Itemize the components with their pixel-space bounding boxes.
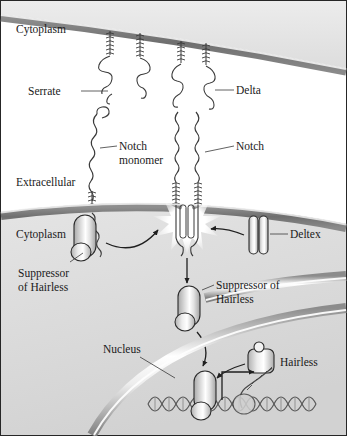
label-suppressor-mid-line2: Hairless — [216, 293, 254, 305]
suppressor-left-lobe — [71, 243, 91, 261]
label-cytoplasm-bottom: Cytoplasm — [16, 228, 66, 241]
deltex-subunit-right — [259, 216, 268, 254]
label-deltex: Deltex — [290, 228, 321, 240]
suppressor-dna-lobe — [191, 402, 211, 420]
label-nucleus: Nucleus — [103, 343, 141, 355]
suppressor-of-hairless-left — [71, 215, 96, 261]
label-notch-monomer-line2: monomer — [119, 154, 163, 166]
suppressor-released-lobe — [175, 313, 195, 331]
deltex-protein — [249, 216, 268, 254]
label-serrate: Serrate — [28, 85, 61, 97]
label-delta: Delta — [236, 84, 261, 96]
label-suppressor-mid-line1: Suppressor of — [216, 279, 280, 292]
label-suppressor-left-line2: of Hairless — [18, 281, 69, 293]
transcript-bubble — [233, 394, 255, 414]
hairless-knob — [254, 342, 264, 352]
label-cytoplasm-top: Cytoplasm — [16, 23, 66, 36]
label-hairless: Hairless — [280, 356, 318, 368]
label-extracellular: Extracellular — [16, 176, 76, 188]
label-suppressor-left-line1: Suppressor — [18, 267, 69, 280]
notch-signaling-figure: Cytoplasm Serrate Delta Notch monomer No… — [0, 0, 347, 436]
label-notch-monomer-line1: Notch — [119, 140, 147, 152]
deltex-subunit-left — [249, 216, 258, 254]
label-notch: Notch — [236, 140, 264, 152]
